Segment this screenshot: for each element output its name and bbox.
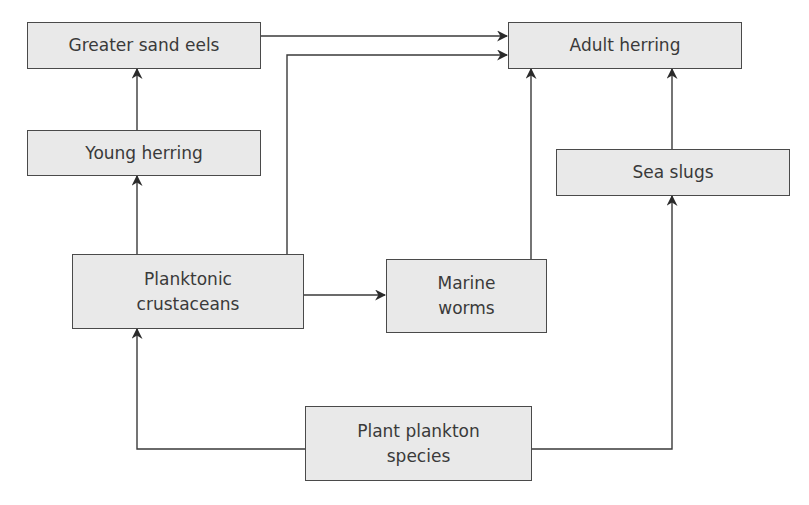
node-label-line1: Plant plankton [357, 419, 480, 444]
node-marine-worms: Marine worms [386, 259, 547, 333]
node-adult-herring: Adult herring [508, 22, 742, 69]
node-sea-slugs: Sea slugs [556, 149, 790, 196]
node-label: Young herring [85, 141, 202, 166]
node-planktonic-crustaceans: Planktonic crustaceans [72, 254, 304, 329]
node-label-line1: Marine [437, 271, 495, 296]
edge-crustaceans-to-adult-herring [287, 55, 507, 254]
node-label: Sea slugs [632, 160, 713, 185]
node-label: Greater sand eels [69, 33, 220, 58]
edge-plant-plankton-to-sea-slugs [531, 196, 672, 449]
node-label-line2: crustaceans [137, 292, 240, 317]
food-web-diagram: Greater sand eels Adult herring Young he… [0, 0, 809, 505]
node-plant-plankton-species: Plant plankton species [305, 406, 532, 481]
node-label: Adult herring [570, 33, 681, 58]
node-label-line2: species [387, 444, 451, 469]
node-label-line2: worms [438, 296, 494, 321]
edge-plant-plankton-to-crustaceans [137, 329, 305, 449]
node-label-line1: Planktonic [144, 267, 232, 292]
node-young-herring: Young herring [27, 130, 261, 176]
node-greater-sand-eels: Greater sand eels [27, 22, 261, 69]
